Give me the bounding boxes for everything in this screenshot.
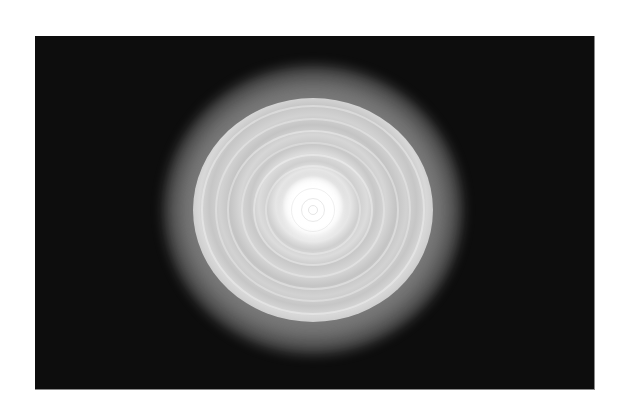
dark-photo-frame	[35, 36, 595, 390]
ring-1	[308, 205, 318, 215]
